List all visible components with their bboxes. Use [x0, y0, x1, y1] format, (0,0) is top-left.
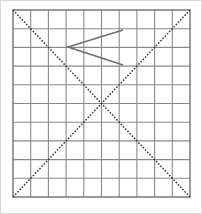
- figure-canvas: A 10 by 10 square grid. Two dotted diago…: [0, 0, 202, 214]
- diagram-svg: [0, 0, 202, 214]
